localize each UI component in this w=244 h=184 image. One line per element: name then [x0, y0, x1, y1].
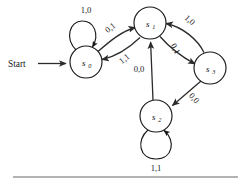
- state-subscript-s1: 1: [152, 23, 155, 30]
- state-circle-s2[interactable]: [140, 100, 172, 132]
- start-label: Start: [8, 59, 26, 69]
- transition-label-s0-s0: 1,0: [81, 5, 92, 15]
- state-node-s0[interactable]: s 0: [70, 46, 102, 78]
- state-node-s3[interactable]: s 3: [194, 52, 226, 84]
- state-label-s1: s: [146, 19, 150, 29]
- transition-s2-s2: [141, 130, 172, 159]
- transition-label-s3-s2: 0,0: [187, 91, 202, 106]
- transition-label-s0-s1: 0,1: [103, 20, 118, 34]
- state-subscript-s3: 3: [211, 68, 215, 75]
- state-label-s3: s: [206, 64, 210, 74]
- transition-s0-s1: [98, 28, 136, 52]
- state-label-s0: s: [82, 58, 86, 68]
- state-node-s1[interactable]: s 1: [134, 7, 166, 39]
- fsm-canvas: Start: [0, 0, 244, 184]
- state-label-s2: s: [152, 112, 156, 122]
- transition-label-s1-s3: 0,1: [169, 41, 183, 55]
- transition-s2-s1: [151, 42, 153, 100]
- transition-label-s2-s2: 1,1: [151, 163, 162, 173]
- state-circle-s3[interactable]: [194, 52, 226, 84]
- state-subscript-s2: 2: [158, 116, 161, 123]
- transition-label-s3-s1: 1,0: [183, 12, 198, 27]
- transition-label-s2-s1: 0,0: [134, 64, 145, 74]
- state-node-s2[interactable]: s 2: [140, 100, 172, 132]
- state-circle-s1[interactable]: [134, 7, 166, 39]
- state-circle-s0[interactable]: [70, 46, 102, 78]
- state-diagram-figure: Start: [0, 0, 244, 184]
